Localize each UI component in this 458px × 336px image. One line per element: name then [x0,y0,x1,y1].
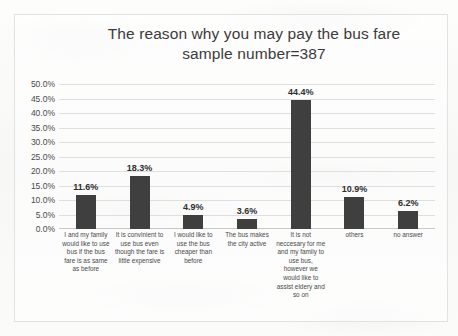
y-axis-tick-label: 50.0% [31,79,55,89]
bar [398,211,418,229]
chart-container: The reason why you may pay the bus fare … [14,14,448,322]
x-axis-category-label: I and my family would like to use bus if… [59,231,113,300]
bar-value-label: 3.6% [237,206,258,216]
bar-slot: 18.3% [113,84,167,229]
bar-value-label: 18.3% [127,163,153,173]
bar-value-label: 6.2% [398,198,419,208]
bar-slot: 6.2% [381,84,435,229]
chart-subtitle: sample number=387 [69,44,439,64]
bar-value-label: 11.6% [73,182,98,192]
bar [183,215,203,229]
bar-series: 11.6%18.3%4.9%3.6%44.4%10.9%6.2% [59,84,435,229]
y-axis-tick-label: 15.0% [31,181,55,191]
x-axis-category-labels: I and my family would like to use bus if… [59,231,435,300]
bar-slot: 4.9% [166,84,220,229]
x-axis-category-label: The bus makes the city active [220,231,274,300]
y-axis-tick-label: 45.0% [31,94,55,104]
bar [237,219,257,229]
bar [76,195,96,229]
x-axis-category-label: others [328,231,382,300]
chart-title-main: The reason why you may pay the bus fare [108,25,401,42]
bar [130,176,150,229]
bar-value-label: 4.9% [183,202,204,212]
x-axis-category-label: no answer [381,231,435,300]
bar-value-label: 10.9% [342,184,368,194]
x-axis-category-label: It is convinient to use bus even though … [113,231,167,300]
y-axis-tick-label: 25.0% [31,152,55,162]
bar-slot: 11.6% [59,84,113,229]
chart-title: The reason why you may pay the bus fare … [69,24,439,64]
bar-slot: 10.9% [328,84,382,229]
bar-slot: 44.4% [274,84,328,229]
y-axis-tick-labels: 50.0%45.0%40.0%35.0%30.0%25.0%20.0%15.0%… [15,84,55,229]
bar [291,100,311,229]
plot-area: 11.6%18.3%4.9%3.6%44.4%10.9%6.2% [59,84,435,229]
x-axis-category-label: It is not neccesary for me and my family… [274,231,328,300]
y-axis-tick-label: 35.0% [31,123,55,133]
y-axis-tick-label: 10.0% [31,195,55,205]
bar-value-label: 44.4% [288,87,314,97]
bar [344,197,364,229]
y-axis-tick-label: 40.0% [31,108,55,118]
y-axis-tick-label: 0.0% [36,224,55,234]
x-axis-category-label: I would like to use the bus cheaper than… [166,231,220,300]
y-axis-tick-label: 5.0% [36,210,55,220]
bar-slot: 3.6% [220,84,274,229]
y-axis-tick-label: 20.0% [31,166,55,176]
y-axis-tick-label: 30.0% [31,137,55,147]
